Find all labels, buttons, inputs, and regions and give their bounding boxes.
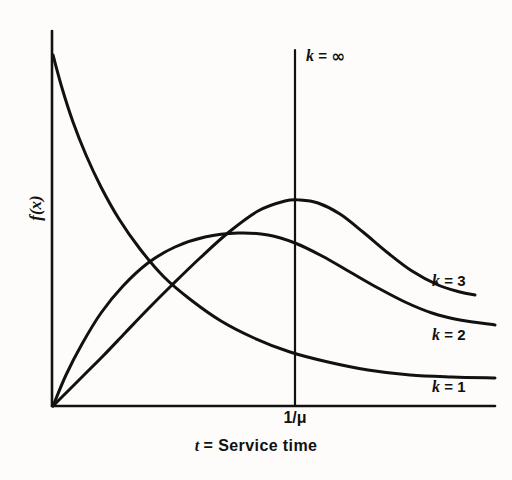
x-axis-title-variable: t: [195, 437, 200, 454]
curve-label-k-3: k=3: [432, 272, 466, 290]
x-axis-title: t=Service time: [96, 437, 416, 455]
curve-label-k-1-variable: k: [432, 378, 441, 395]
curve-label-k-1-equals: =: [441, 378, 457, 395]
curve-label-k-3-variable: k: [432, 272, 441, 289]
curve-label-k-3-equals: =: [441, 272, 457, 289]
curve-label-k-infinity: k=∞: [306, 45, 346, 65]
y-axis-label: f(x): [26, 188, 46, 228]
curve-label-k-3-value: 3: [457, 272, 466, 289]
curve-label-k-1-value: 1: [457, 378, 466, 395]
x-axis-tick-label-1-over-mu: 1/μ: [255, 409, 335, 427]
curve-k-2: [53, 233, 495, 406]
x-axis-title-equals: =: [200, 437, 219, 454]
x-tick-text: 1/μ: [283, 409, 306, 426]
curve-label-k-2-equals: =: [441, 326, 457, 343]
curve-label-k-2-variable: k: [432, 326, 441, 343]
plot-canvas: [0, 0, 512, 480]
curve-k-1: [53, 55, 495, 378]
curve-label-k-infinity-equals: =: [315, 47, 331, 64]
curve-label-k-infinity-value: ∞: [331, 46, 345, 66]
x-axis-title-text: Service time: [218, 437, 317, 454]
curve-label-k-2: k=2: [432, 326, 466, 344]
curve-label-k-2-value: 2: [457, 326, 466, 343]
erlang-distribution-figure: f(x) 1/μ t=Service time k=∞ k=3 k=2 k=1: [0, 0, 512, 480]
curve-label-k-infinity-variable: k: [306, 47, 315, 64]
curve-label-k-1: k=1: [432, 378, 466, 396]
